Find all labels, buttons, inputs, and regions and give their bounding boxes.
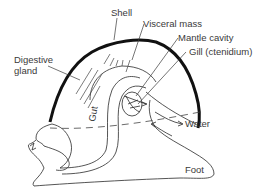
label-water: Water — [185, 118, 210, 129]
gill-ctenidium — [122, 92, 147, 116]
label-digestive-gland-1: Digestive — [14, 54, 53, 65]
visceral-mass-leader — [132, 24, 144, 60]
label-mantle-cavity: Mantle cavity — [178, 32, 234, 43]
label-digestive-gland-2: gland — [14, 65, 37, 76]
label-gill: Gill (ctenidium) — [189, 46, 252, 57]
label-foot: Foot — [185, 164, 204, 175]
label-gut: Gut — [86, 105, 100, 122]
leader-lines — [48, 18, 186, 104]
label-shell: Shell — [111, 7, 132, 18]
digestive-gland-hatching — [76, 54, 130, 108]
water-flow-arrows — [151, 112, 183, 136]
shell — [50, 40, 199, 128]
mollusc-body-plan-diagram: Shell Visceral mass Mantle cavity Gill (… — [0, 0, 259, 191]
label-visceral-mass: Visceral mass — [143, 18, 202, 29]
shell-leader — [114, 18, 117, 40]
mouth-notch — [30, 143, 36, 150]
